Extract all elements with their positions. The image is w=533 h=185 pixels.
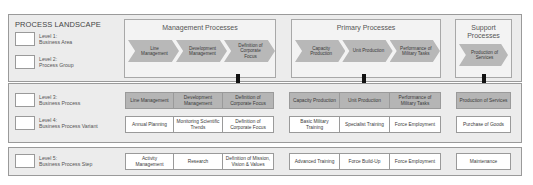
legend-desc: Business Process Step	[39, 161, 92, 167]
step-cell[interactable]: Force Build-Up	[340, 153, 390, 170]
legend-box	[15, 116, 35, 130]
legend-level-1: Level 1:Business Area	[15, 32, 72, 46]
group-title: Primary Processes	[292, 24, 440, 32]
legend-level-3: Level 3:Business Process	[15, 93, 80, 107]
step-cell[interactable]: Research	[174, 153, 223, 170]
group-title: Support Processes	[464, 24, 504, 40]
variant-cell[interactable]: Monitoring Scientific Trends	[174, 116, 223, 133]
step-cell[interactable]: Maintenance	[456, 153, 511, 170]
variant-cell[interactable]: Force Employment	[390, 116, 441, 133]
level3-row-support: Production of Services	[456, 92, 511, 109]
group-title: Management Processes	[125, 24, 275, 32]
legend-box	[15, 32, 35, 46]
level3-row-management: Line Management Development Management D…	[125, 92, 274, 109]
step-cell[interactable]: Definition of Mission, Vision & Values	[223, 153, 274, 170]
variant-cell[interactable]: Specialist Training	[340, 116, 390, 133]
chevron-process[interactable]: Definition of Corporate Focus	[224, 40, 275, 62]
variant-cell[interactable]: Basic Military Training	[289, 116, 340, 133]
group-primary-processes: Primary Processes Capacity Production Un…	[291, 19, 441, 78]
level4-row-primary: Basic Military Training Specialist Train…	[289, 116, 441, 133]
level5-row-management: Activity Management Research Definition …	[125, 153, 274, 170]
chevron-process[interactable]: Capacity Production	[295, 40, 345, 62]
legend-desc: Business Process	[39, 100, 80, 106]
legend-desc: Process Group	[39, 62, 74, 68]
page-title: PROCESS LANDSCAPE	[15, 20, 101, 29]
process-cell[interactable]: Line Management	[125, 92, 174, 109]
chevron-process[interactable]: Unit Production	[342, 40, 392, 62]
process-landscape-middle: Level 3:Business Process Level 4:Busines…	[8, 83, 522, 143]
process-cell[interactable]: Definition of Corporate Focus	[223, 92, 274, 109]
legend-desc: Business Process Variant	[39, 123, 98, 129]
process-cell[interactable]: Unit Production	[340, 92, 390, 109]
step-cell[interactable]: Force Employment	[390, 153, 441, 170]
legend-box	[15, 93, 35, 107]
group-support-processes: Support Processes Production of Services	[455, 19, 512, 78]
level4-row-management: Annual Planning Monitoring Scientific Tr…	[125, 116, 274, 133]
chevron-process[interactable]: Production of Services	[459, 44, 508, 66]
level4-row-support: Purchase of Goods	[456, 116, 511, 133]
legend-box	[15, 55, 35, 69]
group-management-processes: Management Processes Line Management Dev…	[124, 19, 276, 78]
legend-desc: Business Area	[39, 39, 72, 45]
variant-cell[interactable]: Annual Planning	[125, 116, 174, 133]
legend-box	[15, 154, 35, 168]
legend-level-4: Level 4:Business Process Variant	[15, 116, 98, 130]
step-cell[interactable]: Activity Management	[125, 153, 174, 170]
level3-row-primary: Capacity Production Unit Production Perf…	[289, 92, 441, 109]
process-landscape-top: PROCESS LANDSCAPE Level 1:Business Area …	[8, 14, 522, 82]
process-cell[interactable]: Performance of Military Tasks	[390, 92, 441, 109]
chevron-process[interactable]: Line Management	[128, 40, 179, 62]
legend-level-5: Level 5:Business Process Step	[15, 154, 92, 168]
process-cell[interactable]: Development Management	[174, 92, 223, 109]
process-cell[interactable]: Production of Services	[456, 92, 511, 109]
variant-cell[interactable]: Definition of Corporate Focus	[223, 116, 274, 133]
legend-level-2: Level 2:Process Group	[15, 55, 74, 69]
chevron-process[interactable]: Development Management	[176, 40, 227, 62]
chevron-process[interactable]: Performance of Military Tasks	[390, 40, 440, 62]
step-cell[interactable]: Advanced Training	[289, 153, 340, 170]
variant-cell[interactable]: Purchase of Goods	[456, 116, 511, 133]
process-cell[interactable]: Capacity Production	[289, 92, 340, 109]
level5-row-primary: Advanced Training Force Build-Up Force E…	[289, 153, 441, 170]
process-landscape-bottom: Level 5:Business Process Step Activity M…	[8, 147, 522, 176]
level5-row-support: Maintenance	[456, 153, 511, 170]
